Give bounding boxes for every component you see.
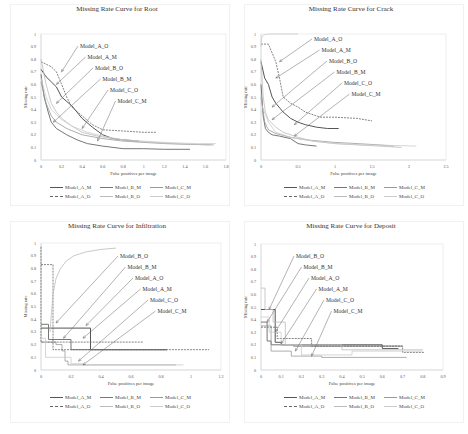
series-line-model-c-m [41,342,176,365]
legend-item: Model_A_O [50,194,96,199]
annotation-arrow [280,39,313,62]
annotation-arrow [295,300,324,351]
annotation-label: Model_C_O [326,297,354,303]
legend-swatch-icon [150,187,163,188]
x-tick-label: 0.7 [400,374,405,379]
x-tick-label: 0.6 [380,374,385,379]
annotation-label: Model_B_M [337,69,366,75]
x-tick-label: 0.6 [128,374,133,379]
x-tick-label: 0.3 [319,374,324,379]
annotation-label: Model_C_M [118,98,147,104]
x-axis-label: False positives per image [108,381,155,386]
series-line-model-b-m [261,322,403,346]
legend-swatch-icon [384,397,397,398]
y-tick-label: 0.5 [251,95,256,100]
x-tick-label: 0.8 [121,164,126,169]
annotation-label: Model_C_M [334,308,363,314]
legend-item: Model_A_M [284,395,330,400]
legend-swatch-icon [50,196,63,197]
legend-swatch-icon [284,196,297,197]
y-tick-label: 0.7 [31,69,36,74]
y-tick-label: 0 [254,158,256,163]
legend-row: Model_A_OModel_B_OModel_C_O [284,192,444,201]
y-tick-label: 1 [34,32,36,37]
annotation-arrow [83,311,156,365]
legend-swatch-icon [150,196,163,197]
y-tick-label: 0.8 [251,267,256,272]
legend-label: Model_C_O [165,194,190,199]
legend-swatch-icon [284,397,297,398]
legend-label: Model_B_M [349,395,375,400]
legend-item: Model_B_O [334,404,380,409]
x-axis-label: False positives per image [329,381,376,386]
annotation-arrow [267,267,301,322]
x-tick-label: 0.5 [295,164,300,169]
legend-swatch-icon [334,406,347,407]
series-line-model-c-m [261,97,394,146]
annotation-arrow [53,79,100,122]
legend-label: Model_B_M [349,185,375,190]
legend-item: Model_A_O [50,404,96,409]
y-tick-label: 0.8 [31,57,36,62]
legend-swatch-icon [334,196,347,197]
legend-item: Model_B_M [334,185,380,190]
y-tick-label: 0.1 [251,145,256,150]
legend-label: Model_A_M [299,185,325,190]
x-tick-label: 1.5 [369,164,374,169]
y-tick-label: 0.6 [251,82,256,87]
annotation-arrow [294,83,342,125]
series-line-model-c-m [261,326,407,358]
legend-item: Model_B_M [334,395,380,400]
legend-item: Model_B_O [334,194,380,199]
legend-label: Model_C_M [399,185,425,190]
annotation-arrow [281,289,316,344]
legend-label: Model_A_M [65,185,91,190]
legend-row: Model_A_OModel_B_OModel_C_O [50,402,210,411]
chart-legend: Model_A_MModel_B_MModel_C_MModel_A_OMode… [284,393,444,411]
annotation-label: Model_B_O [296,253,324,259]
annotation-label: Model_B_M [128,264,157,270]
legend-item: Model_C_M [150,185,196,190]
chart-panel-root: Missing Rate Curve for Root 00.10.20.30.… [0,0,228,210]
legend-label: Model_B_O [349,404,374,409]
x-tick-label: 1 [334,164,336,169]
legend-swatch-icon [100,187,113,188]
legend-swatch-icon [100,397,113,398]
annotation-label: Model_B_O [95,65,123,71]
y-tick-label: 0.5 [31,95,36,100]
y-tick-label: 0.5 [251,305,256,310]
legend-swatch-icon [334,187,347,188]
legend-label: Model_C_M [165,185,191,190]
annotation-label: Model_A_O [311,275,339,281]
y-tick-label: 0.3 [251,120,256,125]
series-line-model-b-o [50,248,116,332]
annotation-label: Model_A_M [88,54,117,60]
x-tick-label: 1.8 [223,164,228,169]
legend-item: Model_C_O [384,404,430,409]
x-tick-label: 1 [190,374,192,379]
x-tick-label: 1.2 [218,374,223,379]
x-tick-label: 2 [408,164,410,169]
legend-item: Model_C_M [384,185,430,190]
series-line-model-c-o [261,34,298,47]
chart-panel-crack: Missing Rate Curve for Crack 00.10.20.30… [234,0,462,210]
x-tick-label: 0.5 [359,374,364,379]
annotation-label: Model_A_O [314,36,342,42]
legend-label: Model_A_M [299,395,325,400]
y-tick-label: 0.3 [31,120,36,125]
y-tick-label: 0.3 [251,330,256,335]
legend-item: Model_A_M [284,185,330,190]
legend-label: Model_A_M [65,395,91,400]
legend-label: Model_B_O [115,194,140,199]
legend-swatch-icon [100,406,113,407]
legend-item: Model_A_M [50,395,96,400]
legend-row: Model_A_MModel_B_MModel_C_M [50,183,210,192]
legend-swatch-icon [284,406,297,407]
legend-swatch-icon [100,196,113,197]
legend-swatch-icon [384,187,397,188]
x-tick-label: 0.1 [279,374,284,379]
y-tick-label: 0.5 [31,304,36,309]
legend-label: Model_C_O [165,404,190,409]
legend-item: Model_B_M [100,395,146,400]
legend-item: Model_C_M [150,395,196,400]
